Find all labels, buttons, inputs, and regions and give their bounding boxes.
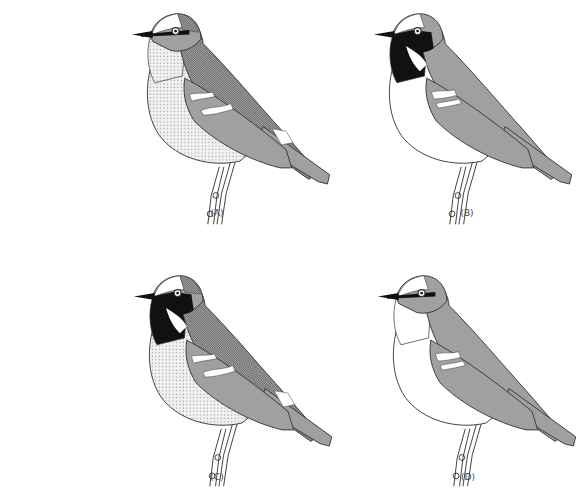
panel-label-d: (D) (448, 472, 488, 482)
panel-label-b: (B) (447, 208, 487, 218)
bird-illustration (122, 262, 362, 492)
bird-panel-b (362, 0, 581, 230)
bird-beak (374, 31, 395, 38)
bird-beak (378, 293, 399, 300)
bird-beak (134, 293, 155, 300)
bird-illustration (120, 0, 360, 230)
bird-panel-c (122, 262, 362, 492)
bird-panel-d (366, 262, 581, 492)
panel-label-a: (A) (197, 208, 237, 218)
bird-illustration (362, 0, 581, 230)
panel-label-c: (C) (197, 472, 237, 482)
bird-illustration (366, 262, 581, 492)
bird-panel-a (120, 0, 360, 230)
bird-beak (132, 31, 153, 38)
